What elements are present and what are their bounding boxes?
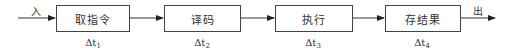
stage-label: 取指令: [75, 11, 111, 27]
stage-box-fetch: 取指令: [56, 5, 130, 32]
stage-label: 译码: [191, 11, 215, 27]
stage-box-decode: 译码: [164, 5, 241, 32]
stage-box-execute: 执行: [275, 5, 353, 32]
pipeline-diagram: 入 出 取指令 译码 执行 存结果 Δt1 Δt2 Δt3 Δt4: [0, 0, 509, 53]
time-label-3: Δt3: [293, 37, 333, 50]
time-label-1: Δt1: [73, 37, 113, 50]
stage-label: 执行: [302, 11, 326, 27]
stage-label: 存结果: [405, 11, 441, 27]
stage-box-store: 存结果: [385, 5, 461, 32]
time-label-2: Δt2: [182, 37, 222, 50]
output-label: 出: [473, 3, 483, 18]
input-label: 入: [31, 3, 41, 18]
time-label-4: Δt4: [402, 37, 442, 50]
